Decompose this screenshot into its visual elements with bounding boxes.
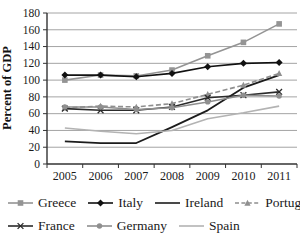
- series-marker-italy: [204, 63, 211, 70]
- chart-plot-area: Percent of GDP 0204060801001201401601802…: [0, 0, 300, 192]
- legend-item-greece: Greece: [7, 196, 76, 210]
- series-marker-portugal: [276, 70, 282, 76]
- legend-item-spain: Spain: [178, 219, 240, 233]
- series-marker-greece: [276, 21, 282, 27]
- y-axis-title: Percent of GDP: [0, 46, 14, 130]
- y-tick-label: 160: [23, 24, 41, 36]
- legend-label-ireland: Ireland: [185, 196, 223, 210]
- y-tick-label: 100: [23, 74, 41, 86]
- x-tick-label: 2010: [231, 169, 255, 183]
- legend-key-france-icon: [7, 220, 34, 232]
- legend-row-1: GreeceItalyIrelandPortugal: [7, 192, 300, 214]
- series-marker-germany: [169, 105, 174, 110]
- series-marker-germany: [205, 99, 210, 104]
- x-tick-label: 2009: [196, 169, 220, 183]
- legend-marker-sample: [97, 223, 102, 228]
- x-tick-label: 2008: [160, 169, 184, 183]
- series-marker-italy: [276, 59, 283, 66]
- legend-label-spain: Spain: [209, 219, 240, 233]
- legend-label-germany: Germany: [117, 219, 167, 233]
- series-marker-germany: [62, 104, 67, 109]
- legend-item-germany: Germany: [86, 219, 167, 233]
- legend-label-france: France: [38, 219, 75, 233]
- series-marker-germany: [276, 93, 281, 98]
- chart-legend: GreeceItalyIrelandPortugal FranceGermany…: [0, 192, 300, 237]
- y-tick-label: 20: [29, 141, 41, 153]
- y-tick-label: 180: [23, 7, 41, 19]
- legend-key-portugal-icon: [234, 197, 261, 209]
- legend-item-france: France: [7, 219, 75, 233]
- y-tick-label: 0: [34, 158, 40, 170]
- legend-key-italy-icon: [87, 197, 114, 209]
- x-tick-label: 2005: [53, 169, 77, 183]
- y-tick-label: 120: [23, 57, 41, 69]
- y-tick-label: 60: [29, 107, 41, 119]
- legend-key-spain-icon: [178, 220, 205, 232]
- legend-marker-sample: [18, 200, 24, 206]
- series-marker-italy: [240, 60, 247, 67]
- series-marker-germany: [98, 104, 103, 109]
- legend-row-2: FranceGermanySpain: [7, 215, 300, 237]
- legend-marker-sample: [97, 200, 104, 207]
- legend-label-portugal: Portugal: [265, 196, 300, 210]
- series-marker-greece: [205, 53, 211, 59]
- y-tick-label: 140: [23, 40, 41, 52]
- legend-label-italy: Italy: [118, 196, 143, 210]
- series-marker-germany: [241, 93, 246, 98]
- legend-item-italy: Italy: [87, 196, 143, 210]
- legend-key-ireland-icon: [154, 197, 181, 209]
- legend-item-portugal: Portugal: [234, 196, 300, 210]
- y-tick-label: 80: [29, 91, 41, 103]
- x-tick-label: 2007: [124, 169, 148, 183]
- legend-item-ireland: Ireland: [154, 196, 223, 210]
- y-tick-label: 40: [29, 124, 41, 136]
- series-marker-greece: [241, 40, 247, 46]
- debt-to-gdp-line-chart: Percent of GDP 0204060801001201401601802…: [0, 0, 300, 242]
- legend-label-greece: Greece: [38, 196, 76, 210]
- x-tick-label: 2006: [89, 169, 113, 183]
- series-marker-germany: [134, 107, 139, 112]
- legend-key-greece-icon: [7, 197, 34, 209]
- plot-layers: 0204060801001201401601802005200620072008…: [23, 7, 297, 183]
- legend-key-germany-icon: [86, 220, 113, 232]
- x-tick-label: 2011: [267, 169, 291, 183]
